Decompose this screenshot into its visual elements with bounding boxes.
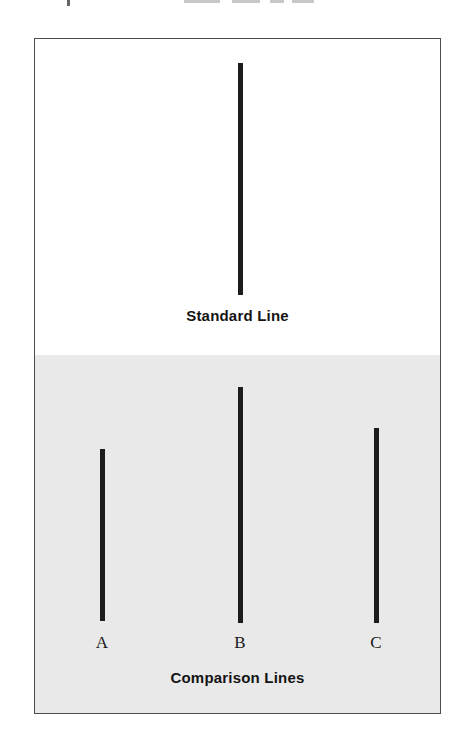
scan-artifact-mark — [292, 0, 314, 3]
comparison-line-label-c: C — [364, 633, 388, 653]
scan-artifact-mark — [184, 0, 220, 3]
standard-line-caption: Standard Line — [35, 307, 440, 324]
scan-artifacts — [0, 0, 468, 10]
scan-artifact-mark — [232, 0, 260, 3]
comparison-line-mark-a — [100, 449, 105, 621]
scan-artifact-mark — [270, 0, 284, 3]
comparison-line-label-b: B — [228, 633, 252, 653]
comparison-lines-caption: Comparison Lines — [35, 669, 440, 686]
comparison-lines-panel: A B C Comparison Lines — [35, 355, 440, 713]
standard-line-mark — [238, 63, 243, 295]
standard-line-panel: Standard Line — [35, 39, 440, 355]
scan-artifact-mark — [67, 0, 70, 6]
comparison-line-mark-b — [238, 387, 243, 623]
comparison-line-mark-c — [374, 428, 379, 623]
figure-frame: Standard Line A B C Comparison Lines — [34, 38, 441, 714]
comparison-line-label-a: A — [90, 633, 114, 653]
